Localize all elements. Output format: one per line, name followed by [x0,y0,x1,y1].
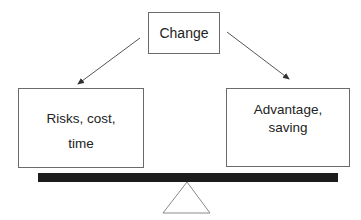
arrow-to-left-box [78,38,140,84]
advantage-saving-node: Advantage, saving [226,88,350,167]
change-node: Change [148,12,220,54]
risks-cost-time-node: Risks, cost, time [18,88,144,168]
left-node-line-2: time [68,131,94,156]
change-label: Change [159,25,208,41]
fulcrum-triangle [163,182,210,213]
left-node-line-1: Risks, cost, [46,106,115,131]
balance-beam [38,173,338,182]
right-node-line-2: saving [268,119,307,137]
arrow-to-right-box [227,32,289,79]
right-node-line-1: Advantage, [254,101,322,119]
